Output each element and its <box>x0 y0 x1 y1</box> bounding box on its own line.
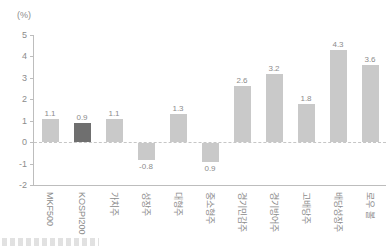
cutoff-caption <box>2 238 99 246</box>
bar-MKF500 <box>42 119 59 143</box>
x-axis-label-배당성장주: 배당성장주 <box>333 192 343 232</box>
value-label: 2.6 <box>225 76 259 85</box>
bar-KOSPI200 <box>74 123 91 142</box>
y-axis-tick <box>30 35 34 36</box>
bar-성장주 <box>138 143 155 160</box>
y-tick-label: 0 <box>7 137 27 147</box>
x-axis-label-가치주: 가치주 <box>109 192 119 216</box>
x-axis-label-KOSPI200: KOSPI200 <box>77 192 87 235</box>
y-axis-tick <box>30 56 34 57</box>
value-label: 0.9 <box>193 164 227 173</box>
y-axis-tick <box>30 78 34 79</box>
x-axis-label-MKF500: MKF500 <box>45 192 55 226</box>
value-label: 1.3 <box>161 104 195 113</box>
value-label: 1.8 <box>289 94 323 103</box>
bar-대형주 <box>170 114 187 142</box>
y-axis-tick <box>30 121 34 122</box>
bar-가치주 <box>106 119 123 143</box>
y-tick-label: 5 <box>7 30 27 40</box>
x-axis-label-로우 볼: 로우 볼 <box>365 192 375 219</box>
x-axis-label-성장주: 성장주 <box>141 192 151 216</box>
y-axis-tick <box>30 99 34 100</box>
bar-중소형주 <box>202 143 219 162</box>
y-axis-unit-label: (%) <box>17 10 31 20</box>
value-label: 1.1 <box>97 109 131 118</box>
value-label: 4.3 <box>321 40 355 49</box>
x-axis-label-고배당주: 고배당주 <box>301 192 311 224</box>
bar-경기민감주 <box>234 86 251 142</box>
bar-경기방어주 <box>266 74 283 143</box>
plot-area: 543210-1-2 1.10.91.1-0.81.30.92.63.21.84… <box>33 35 386 186</box>
y-axis-tick <box>30 164 34 165</box>
x-axis-label-대형주: 대형주 <box>173 192 183 216</box>
bar-배당성장주 <box>330 50 347 142</box>
value-label: -0.8 <box>129 162 163 171</box>
y-tick-label: 1 <box>7 116 27 126</box>
y-tick-label: 2 <box>7 94 27 104</box>
bar-고배당주 <box>298 104 315 143</box>
y-tick-label: 4 <box>7 51 27 61</box>
value-label: 3.6 <box>353 55 387 64</box>
y-axis-tick <box>30 185 34 186</box>
y-tick-label: -2 <box>7 180 27 190</box>
value-label: 0.9 <box>65 113 99 122</box>
x-axis-label-경기민감주: 경기민감주 <box>237 192 247 232</box>
y-tick-label: 3 <box>7 73 27 83</box>
value-label: 1.1 <box>33 109 67 118</box>
x-axis-label-경기방어주: 경기방어주 <box>269 192 279 232</box>
x-axis-label-중소형주: 중소형주 <box>205 192 215 224</box>
value-label: 3.2 <box>257 64 291 73</box>
y-tick-label: -1 <box>7 159 27 169</box>
bar-로우 볼 <box>362 65 379 142</box>
